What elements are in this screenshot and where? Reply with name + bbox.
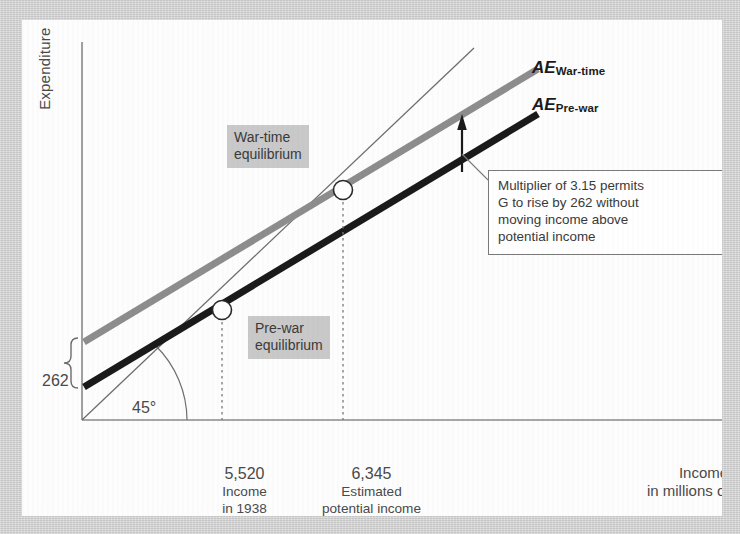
pre-war-equilibrium-label: Pre-war equilibrium (248, 316, 330, 359)
war-time-equilibrium-label-line2: equilibrium (234, 146, 302, 162)
legend-ae-war-time: AEWar-time (532, 58, 605, 78)
callout-line-4: potential income (498, 229, 596, 244)
x-axis-title-line2: in millions of £ (647, 482, 722, 499)
x-tick-line3-2: potential income (322, 501, 421, 516)
angle-arc (156, 346, 187, 420)
pre-war-equilibrium-label-line2: equilibrium (255, 337, 323, 353)
callout-leader-line (462, 154, 488, 180)
callout-line-2: G to rise by 262 without (498, 195, 639, 210)
legend-ae-war-time-sub: War-time (556, 65, 606, 77)
ae-war-time-line (84, 69, 538, 342)
multiplier-callout-box: Multiplier of 3.15 permits G to rise by … (488, 170, 722, 255)
x-tick-line3-1: in 1938 (222, 501, 267, 516)
chart-panel: Expenditure AEWar-time AEPre-war War-tim… (22, 20, 722, 516)
x-tick-label-2: 6,345 Estimated potential income (284, 464, 459, 516)
x-tick-line2-2: Estimated (341, 484, 401, 499)
war-time-equilibrium-label: War-time equilibrium (227, 125, 309, 168)
x-tick-value-2: 6,345 (284, 464, 459, 483)
forty-five-degree-line (82, 48, 474, 420)
legend-ae-pre-war-name: AE (532, 95, 556, 114)
legend-ae-pre-war: AEPre-war (532, 95, 599, 115)
x-axis-title: Income Y in millions of £ (582, 464, 722, 500)
pre-war-equilibrium-point (213, 301, 232, 320)
war-time-equilibrium-point (334, 181, 353, 200)
war-time-equilibrium-label-line1: War-time (234, 129, 290, 145)
callout-line-1: Multiplier of 3.15 permits (498, 178, 644, 193)
figure-frame: Expenditure AEWar-time AEPre-war War-tim… (0, 0, 740, 534)
y-axis-title: Expenditure (36, 20, 53, 154)
angle-label: 45° (132, 399, 156, 418)
callout-line-3: moving income above (498, 212, 628, 227)
x-axis-title-line1: Income Y (679, 464, 722, 481)
legend-ae-war-time-name: AE (532, 58, 556, 77)
legend-ae-pre-war-sub: Pre-war (556, 102, 599, 114)
chart-plot-svg (22, 20, 722, 516)
pre-war-equilibrium-label-line1: Pre-war (255, 320, 304, 336)
gap-value-label: 262 (42, 372, 69, 391)
x-tick-line2-1: Income (222, 484, 267, 499)
